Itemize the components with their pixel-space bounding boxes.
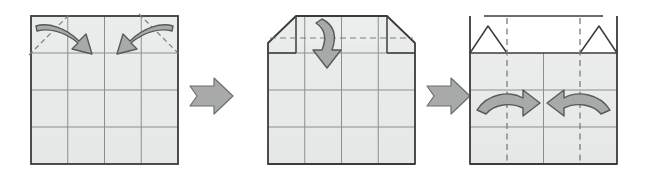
panel-1 — [29, 14, 180, 164]
panel-2 — [268, 16, 415, 164]
origami-instruction-diagram: Origami folding sequence: fold top corne… — [0, 0, 646, 181]
diagram-canvas — [0, 0, 646, 181]
panel-3-open-band — [470, 16, 617, 53]
panel-3 — [470, 16, 617, 164]
